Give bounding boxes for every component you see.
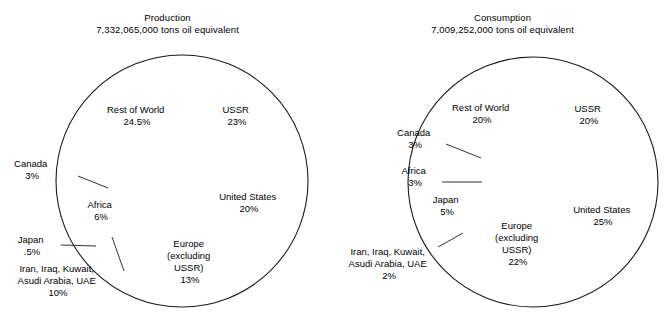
production-label-iran-group: Iran, Iraq, Kuwait, Asudi Arabia, UAE 10… <box>18 263 99 298</box>
production-europe-name-2: (excluding <box>167 250 210 261</box>
consumption-japan-percent: 5% <box>440 206 454 217</box>
consumption-united-states-name: United States <box>573 204 630 215</box>
production-united-states-name: United States <box>219 191 276 202</box>
production-pie-svg: Rest of World 24.5% USSR 23% United Stat… <box>0 0 335 326</box>
consumption-label-iran-group: Iran, Iraq, Kuwait, Asudi Arabia, UAE 2% <box>349 246 430 281</box>
consumption-united-states-percent: 25% <box>593 216 613 227</box>
consumption-africa-name: Africa <box>402 165 427 176</box>
consumption-canada-percent: 3% <box>408 139 422 150</box>
consumption-africa-percent: 3% <box>408 177 422 188</box>
production-europe-name-3: USSR) <box>174 262 204 273</box>
consumption-iran-percent: 2% <box>382 270 396 281</box>
production-rest-of-world-percent: 24.5% <box>124 116 151 127</box>
production-iran-percent: 10% <box>48 287 68 298</box>
production-united-states-percent: 20% <box>239 203 259 214</box>
production-ussr-percent: 23% <box>227 116 247 127</box>
consumption-iran-name-2: Asudi Arabia, UAE <box>349 258 427 269</box>
consumption-canada-name: Canada <box>397 127 431 138</box>
production-africa-name: Africa <box>88 199 113 210</box>
production-label-canada: Canada 3% <box>14 158 50 181</box>
consumption-japan-name: Japan <box>433 194 459 205</box>
consumption-pie-svg: Rest of World 20% USSR 20% United States… <box>335 0 670 326</box>
consumption-europe-name-2: (excluding <box>495 232 538 243</box>
production-japan-name: Japan <box>18 234 44 245</box>
production-ussr-name: USSR <box>222 104 249 115</box>
production-canada-percent: 3% <box>25 170 39 181</box>
consumption-ussr-name: USSR <box>574 103 601 114</box>
production-africa-percent: 6% <box>94 211 108 222</box>
consumption-ussr-percent: 20% <box>579 115 599 126</box>
consumption-iran-name-1: Iran, Iraq, Kuwait, <box>350 246 424 257</box>
production-europe-name-1: Europe <box>173 238 204 249</box>
consumption-europe-name-1: Europe <box>501 220 532 231</box>
pie-chart-figure: Production 7,332,065,000 tons oil equiva… <box>0 0 670 326</box>
production-chart-panel: Production 7,332,065,000 tons oil equiva… <box>0 0 335 326</box>
production-japan-percent: .5% <box>24 246 41 257</box>
production-label-japan: Japan .5% <box>18 234 47 257</box>
production-iran-name-1: Iran, Iraq, Kuwait, <box>19 263 93 274</box>
production-rest-of-world-name: Rest of World <box>107 104 164 115</box>
production-canada-name: Canada <box>14 158 48 169</box>
production-europe-percent: 13% <box>180 274 200 285</box>
production-iran-name-2: Asudi Arabia, UAE <box>18 275 96 286</box>
consumption-chart-panel: Consumption 7,009,252,000 tons oil equiv… <box>335 0 670 326</box>
consumption-rest-of-world-name: Rest of World <box>452 102 509 113</box>
consumption-rest-of-world-percent: 20% <box>472 114 492 125</box>
consumption-europe-name-3: USSR) <box>502 244 532 255</box>
consumption-europe-percent: 22% <box>508 256 528 267</box>
